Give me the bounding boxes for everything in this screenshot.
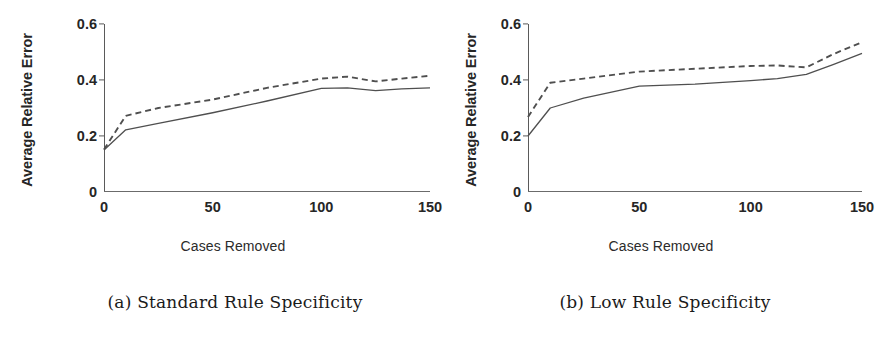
y-tick-mark-b-1 xyxy=(523,135,528,136)
y-tick-label-b-2: 0.4 xyxy=(501,72,521,88)
panel-standard-rule-specificity: Average Relative Error 00.20.40.60501001… xyxy=(0,0,446,340)
x-tick-label-a-0: 0 xyxy=(100,199,108,215)
plot-area-a: 00.20.40.6050100150 xyxy=(104,24,430,192)
y-tick-mark-a-3 xyxy=(99,23,104,24)
x-tick-label-b-3: 150 xyxy=(850,199,874,215)
y-axis-title-b: Average Relative Error xyxy=(456,10,486,210)
x-axis-title-a: Cases Removed xyxy=(10,238,456,254)
x-tick-label-a-2: 100 xyxy=(309,199,333,215)
x-tick-label-a-3: 150 xyxy=(418,199,442,215)
caption-b: (b) Low Rule Specificity xyxy=(442,292,888,312)
figure-two-panel-line-charts: Average Relative Error 00.20.40.60501001… xyxy=(0,0,893,340)
panel-low-rule-specificity: Average Relative Error 00.20.40.60501001… xyxy=(446,0,892,340)
y-tick-label-b-0: 0 xyxy=(513,184,521,200)
series-svg-b xyxy=(528,24,862,192)
series-line-a-dashed xyxy=(104,76,430,150)
y-tick-mark-a-1 xyxy=(99,135,104,136)
y-tick-label-a-1: 0.2 xyxy=(77,128,97,144)
x-axis-title-b: Cases Removed xyxy=(438,238,884,254)
y-tick-label-b-1: 0.2 xyxy=(501,128,521,144)
y-tick-mark-b-3 xyxy=(523,23,528,24)
x-tick-label-b-0: 0 xyxy=(524,199,532,215)
series-line-b-solid xyxy=(528,53,862,136)
series-svg-a xyxy=(104,24,430,192)
caption-a: (a) Standard Rule Specificity xyxy=(12,292,458,312)
series-line-a-solid xyxy=(104,88,430,150)
x-tick-label-b-2: 100 xyxy=(739,199,763,215)
y-tick-mark-a-2 xyxy=(99,79,104,80)
x-tick-label-a-1: 50 xyxy=(205,199,221,215)
y-tick-label-a-0: 0 xyxy=(89,184,97,200)
x-tick-label-b-1: 50 xyxy=(631,199,647,215)
y-tick-label-a-2: 0.4 xyxy=(77,72,97,88)
series-line-b-dashed xyxy=(528,42,862,117)
y-tick-label-a-3: 0.6 xyxy=(77,16,97,32)
y-axis-title-a: Average Relative Error xyxy=(12,10,42,210)
y-tick-label-b-3: 0.6 xyxy=(501,16,521,32)
y-tick-mark-b-2 xyxy=(523,79,528,80)
plot-area-b: 00.20.40.6050100150 xyxy=(528,24,862,192)
